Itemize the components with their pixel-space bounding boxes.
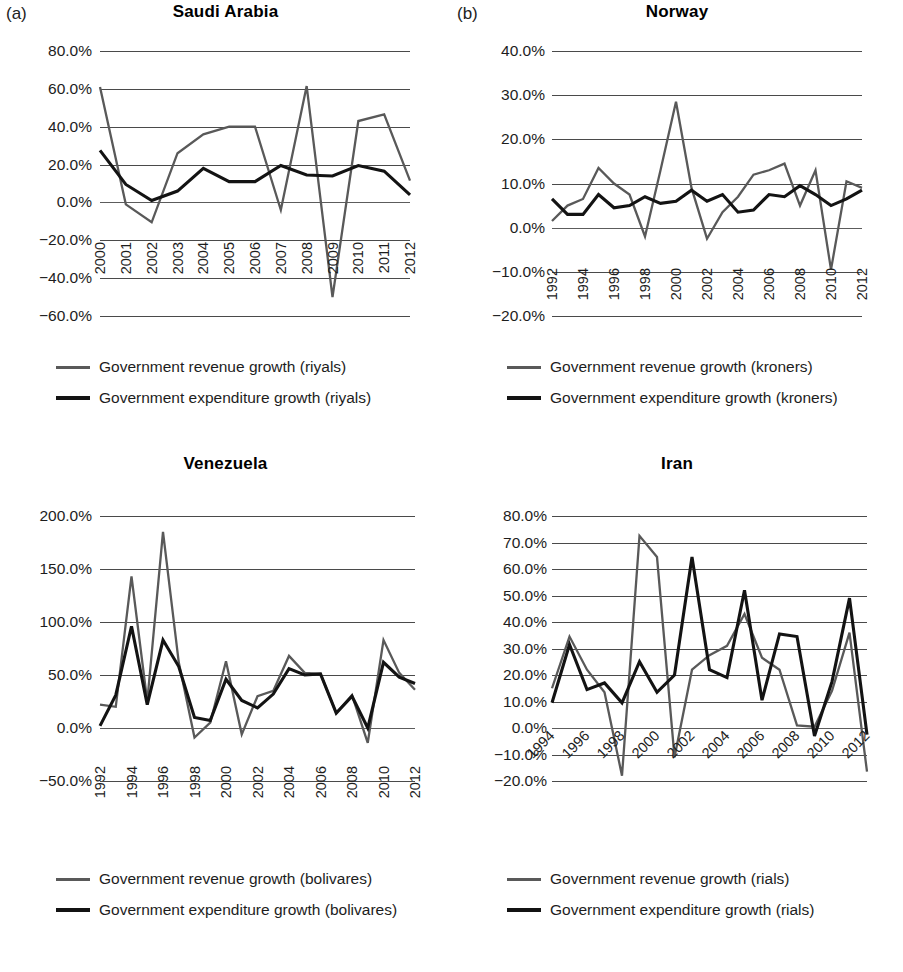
x-axis-tick-label: 1996 bbox=[155, 766, 171, 798]
x-axis-tick-label: 2000 bbox=[668, 268, 684, 300]
x-axis-tick-label: 2012 bbox=[402, 242, 418, 274]
legend-line-expenditure-icon bbox=[507, 396, 541, 400]
x-axis-tick-label: 1992 bbox=[92, 766, 108, 798]
chart-venezuela: 200.0%150.0%100.0%50.0%0.0%−50.0%1992199… bbox=[0, 502, 451, 822]
legend-label: Government revenue growth (rials) bbox=[550, 870, 790, 888]
x-axis-tick-label: 2009 bbox=[325, 242, 341, 274]
chart-saudi-arabia: 80.0%60.0%40.0%20.0%0.0%−20.0%−40.0%−60.… bbox=[0, 30, 451, 330]
legend-line-revenue-icon bbox=[507, 878, 541, 881]
legend-line-revenue-icon bbox=[507, 366, 541, 369]
x-axis-tick-label: 2008 bbox=[299, 242, 315, 274]
legend-label: Government expenditure growth (kroners) bbox=[550, 389, 838, 407]
x-axis-tick-label: 1998 bbox=[637, 268, 653, 300]
panel-title-norway: Norway bbox=[451, 2, 903, 22]
x-axis-tick-label: 1998 bbox=[187, 766, 203, 798]
x-axis-tick-label: 2002 bbox=[144, 242, 160, 274]
expenditure-growth-line bbox=[552, 186, 862, 215]
legend-line-expenditure-icon bbox=[507, 908, 541, 912]
x-axis-tick-label: 2006 bbox=[313, 766, 329, 798]
revenue-growth-line bbox=[552, 102, 862, 270]
x-axis-tick-label: 2000 bbox=[218, 766, 234, 798]
legend-item[interactable]: Government expenditure growth (riyals) bbox=[56, 389, 451, 407]
x-axis-tick-label: 1994 bbox=[124, 766, 140, 798]
panel-title-venezuela: Venezuela bbox=[0, 454, 451, 474]
legend-venezuela: Government revenue growth (bolivares)Gov… bbox=[56, 870, 451, 932]
legend-item[interactable]: Government revenue growth (kroners) bbox=[507, 358, 903, 376]
x-axis-tick-label: 2003 bbox=[170, 242, 186, 274]
x-axis-tick-label: 1994 bbox=[575, 268, 591, 300]
panel-title-saudi-arabia: Saudi Arabia bbox=[0, 2, 451, 22]
x-axis-tick-label: 1992 bbox=[544, 268, 560, 300]
x-axis-tick-label: 2004 bbox=[195, 242, 211, 274]
x-axis-tick-label: 1996 bbox=[606, 268, 622, 300]
legend-item[interactable]: Government expenditure growth (kroners) bbox=[507, 389, 903, 407]
legend-line-revenue-icon bbox=[56, 366, 90, 369]
panel-title-iran: Iran bbox=[451, 454, 903, 474]
legend-label: Government revenue growth (kroners) bbox=[550, 358, 813, 376]
legend-label: Government revenue growth (riyals) bbox=[99, 358, 346, 376]
chart-iran: 80.0%70.0%60.0%50.0%40.0%30.0%20.0%10.0%… bbox=[451, 502, 903, 822]
legend-label: Government expenditure growth (bolivares… bbox=[99, 901, 397, 919]
x-axis-tick-label: 2008 bbox=[792, 268, 808, 300]
legend-line-revenue-icon bbox=[56, 878, 90, 881]
legend-label: Government expenditure growth (riyals) bbox=[99, 389, 371, 407]
x-axis-tick-label: 2001 bbox=[118, 242, 134, 274]
expenditure-growth-line bbox=[100, 626, 415, 728]
expenditure-growth-line bbox=[100, 150, 410, 200]
series-layer bbox=[0, 502, 451, 801]
legend-line-expenditure-icon bbox=[56, 396, 90, 400]
x-axis-tick-label: 2008 bbox=[344, 766, 360, 798]
legend-item[interactable]: Government revenue growth (bolivares) bbox=[56, 870, 451, 888]
series-layer bbox=[0, 30, 451, 336]
x-axis-tick-label: 2002 bbox=[699, 268, 715, 300]
x-axis-tick-label: 2010 bbox=[350, 242, 366, 274]
x-axis-tick-label: 2012 bbox=[854, 268, 870, 300]
legend-item[interactable]: Government expenditure growth (bolivares… bbox=[56, 901, 451, 919]
chart-norway: 40.0%30.0%20.0%10.0%0.0%−10.0%−20.0%1992… bbox=[451, 30, 903, 330]
figure-grid: (a) Saudi Arabia 80.0%60.0%40.0%20.0%0.0… bbox=[0, 0, 903, 972]
legend-line-expenditure-icon bbox=[56, 908, 90, 912]
panel-iran: Iran 80.0%70.0%60.0%50.0%40.0%30.0%20.0%… bbox=[451, 452, 903, 964]
legend-item[interactable]: Government revenue growth (riyals) bbox=[56, 358, 451, 376]
x-axis-tick-label: 2006 bbox=[247, 242, 263, 274]
x-axis-tick-label: 2004 bbox=[281, 766, 297, 798]
x-axis-tick-label: 2006 bbox=[761, 268, 777, 300]
revenue-growth-line bbox=[100, 532, 415, 743]
x-axis-tick-label: 2010 bbox=[823, 268, 839, 300]
x-axis-tick-label: 2010 bbox=[376, 766, 392, 798]
legend-norway: Government revenue growth (kroners)Gover… bbox=[507, 358, 903, 420]
panel-venezuela: Venezuela 200.0%150.0%100.0%50.0%0.0%−50… bbox=[0, 452, 451, 964]
expenditure-growth-line bbox=[552, 557, 867, 736]
panel-norway: (b) Norway 40.0%30.0%20.0%10.0%0.0%−10.0… bbox=[451, 0, 903, 452]
x-axis-tick-label: 2004 bbox=[730, 268, 746, 300]
legend-label: Government expenditure growth (rials) bbox=[550, 901, 814, 919]
legend-item[interactable]: Government expenditure growth (rials) bbox=[507, 901, 903, 919]
x-axis-tick-label: 2000 bbox=[92, 242, 108, 274]
legend-item[interactable]: Government revenue growth (rials) bbox=[507, 870, 903, 888]
x-axis-tick-label: 2012 bbox=[407, 766, 423, 798]
legend-label: Government revenue growth (bolivares) bbox=[99, 870, 372, 888]
x-axis-tick-label: 2002 bbox=[250, 766, 266, 798]
legend-iran: Government revenue growth (rials)Governm… bbox=[507, 870, 903, 932]
legend-saudi-arabia: Government revenue growth (riyals)Govern… bbox=[56, 358, 451, 420]
x-axis-tick-label: 2011 bbox=[376, 242, 392, 273]
x-axis-tick-label: 2007 bbox=[273, 242, 289, 274]
panel-saudi-arabia: (a) Saudi Arabia 80.0%60.0%40.0%20.0%0.0… bbox=[0, 0, 451, 452]
x-axis-tick-label: 2005 bbox=[221, 242, 237, 274]
